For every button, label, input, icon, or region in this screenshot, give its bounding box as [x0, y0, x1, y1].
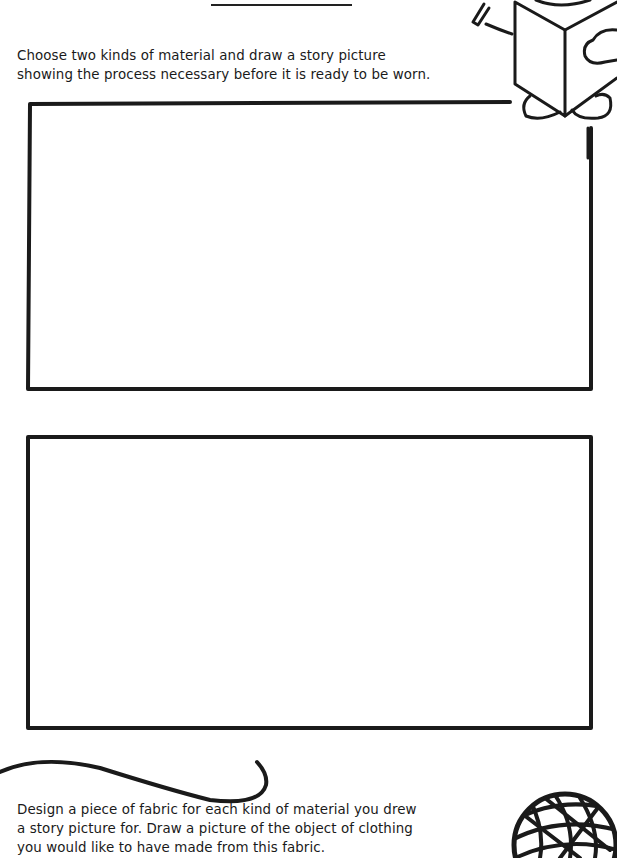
- yarn-ball-icon: [0, 0, 617, 858]
